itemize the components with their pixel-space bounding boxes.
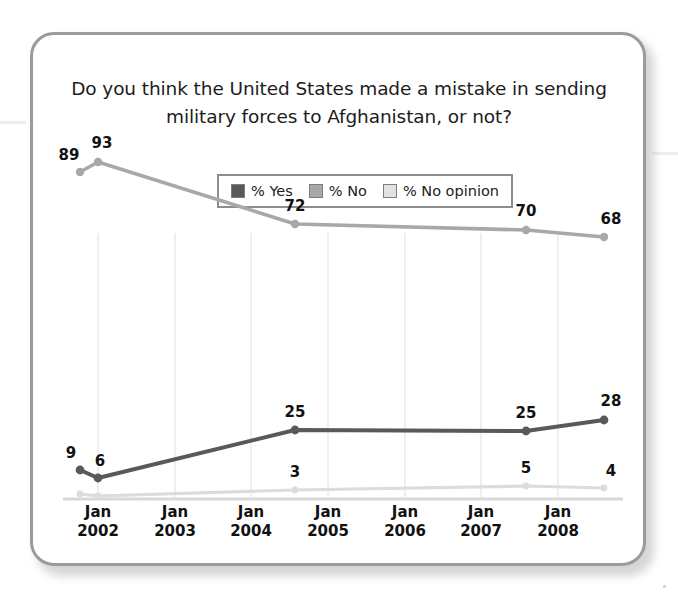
x-tick-2002-year: 2002 — [77, 522, 119, 541]
legend-item-yes[interactable]: % Yes — [231, 183, 293, 199]
x-tick-2002-month: Jan — [77, 503, 119, 522]
x-tick-2006-year: 2006 — [384, 522, 426, 541]
legend-label-yes: % Yes — [251, 183, 293, 199]
page-artifact-left — [0, 121, 26, 124]
data-label-yes-0: 9 — [66, 444, 76, 462]
x-tick-2002: Jan 2002 — [77, 503, 119, 541]
x-tick-2005-month: Jan — [307, 503, 349, 522]
legend-item-no-opinion[interactable]: % No opinion — [383, 183, 499, 199]
chart-title-line-2: military forces to Afghanistan, or not? — [166, 106, 512, 127]
x-tick-2005-year: 2005 — [307, 522, 349, 541]
x-tick-2007: Jan 2007 — [460, 503, 502, 541]
x-tick-2004-month: Jan — [230, 503, 272, 522]
x-tick-2003-year: 2003 — [154, 522, 196, 541]
chart-title: Do you think the United States made a mi… — [57, 75, 621, 131]
x-tick-2008-month: Jan — [537, 503, 579, 522]
legend-swatch-no-opinion — [383, 184, 397, 198]
legend-swatch-no — [309, 184, 323, 198]
x-tick-2004-year: 2004 — [230, 522, 272, 541]
data-label-no-opinion-3: 5 — [521, 459, 531, 477]
x-tick-2004: Jan 2004 — [230, 503, 272, 541]
x-tick-2003: Jan 2003 — [154, 503, 196, 541]
chart-legend: % Yes % No % No opinion — [217, 174, 513, 208]
chart-card: Do you think the United States made a mi… — [30, 32, 646, 566]
x-tick-2008: Jan 2008 — [537, 503, 579, 541]
x-tick-2007-month: Jan — [460, 503, 502, 522]
data-label-no-opinion-4: 4 — [606, 462, 616, 480]
legend-swatch-yes — [231, 184, 245, 198]
x-tick-2007-year: 2007 — [460, 522, 502, 541]
series-no-opinion — [77, 483, 608, 500]
page-artifact-right — [652, 152, 678, 155]
x-tick-2003-month: Jan — [154, 503, 196, 522]
chart-title-line-1: Do you think the United States made a mi… — [71, 78, 607, 99]
data-label-yes-3: 25 — [516, 404, 537, 422]
data-label-no-4: 68 — [601, 210, 622, 228]
x-tick-2006: Jan 2006 — [384, 503, 426, 541]
data-label-no-0: 89 — [59, 146, 80, 164]
legend-label-no-opinion: % No opinion — [403, 183, 499, 199]
x-tick-2008-year: 2008 — [537, 522, 579, 541]
data-label-no-3: 70 — [516, 202, 537, 220]
data-label-yes-4: 28 — [601, 392, 622, 410]
x-axis-labels: Jan 2002 Jan 2003 Jan 2004 Jan 2005 Jan … — [33, 503, 649, 563]
data-label-yes-2: 25 — [285, 403, 306, 421]
x-tick-2006-month: Jan — [384, 503, 426, 522]
data-label-no-1: 93 — [92, 134, 113, 152]
gridlines — [98, 233, 558, 497]
x-tick-2005: Jan 2005 — [307, 503, 349, 541]
legend-label-no: % No — [329, 183, 367, 199]
data-label-yes-1: 6 — [95, 452, 105, 470]
data-label-no-opinion-2: 3 — [290, 463, 300, 481]
series-yes — [76, 416, 609, 483]
legend-item-no[interactable]: % No — [309, 183, 367, 199]
page-artifact-dot — [663, 585, 666, 588]
